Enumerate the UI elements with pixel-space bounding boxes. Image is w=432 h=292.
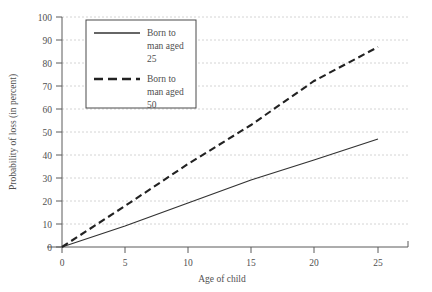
legend-label-2-line3: 50 (147, 100, 157, 110)
x-tick-label-25: 25 (373, 258, 383, 268)
x-tick-label-15: 15 (246, 258, 256, 268)
x-tick-label-20: 20 (309, 258, 319, 268)
x-tick-labels: 0 5 10 15 20 25 (60, 258, 383, 268)
y-tick-label-40: 40 (43, 151, 53, 161)
y-tick-label-100: 100 (38, 13, 53, 23)
x-axis-title: Age of child (198, 274, 246, 284)
legend-label-2-line1: Born to (147, 74, 176, 84)
legend-label-1-line2: man aged (147, 41, 184, 51)
y-tick-label-80: 80 (43, 59, 53, 69)
y-tick-label-0: 0 (47, 243, 52, 253)
y-tick-label-20: 20 (43, 197, 53, 207)
y-tick-label-60: 60 (43, 105, 53, 115)
legend-label-2-line2: man aged (147, 87, 184, 97)
x-tick-label-5: 5 (123, 258, 128, 268)
y-tick-labels: 100 90 80 70 60 50 40 30 20 10 0 (38, 13, 53, 253)
chart-figure: 100 90 80 70 60 50 40 30 20 10 0 0 5 10 … (0, 0, 432, 292)
x-tick-label-0: 0 (60, 258, 65, 268)
y-tick-label-70: 70 (43, 82, 53, 92)
x-tick-label-10: 10 (183, 258, 193, 268)
y-axis-title: Probability of loss (in percent) (8, 74, 19, 190)
y-axis-ticks (56, 17, 62, 247)
y-tick-label-30: 30 (43, 174, 53, 184)
legend: Born to man aged 25 Born to man aged 50 (86, 20, 196, 110)
legend-label-1-line3: 25 (147, 54, 157, 64)
probability-of-loss-line-chart: 100 90 80 70 60 50 40 30 20 10 0 0 5 10 … (0, 0, 432, 292)
y-tick-label-10: 10 (43, 220, 53, 230)
x-axis-ticks (62, 247, 378, 253)
y-tick-label-50: 50 (43, 128, 53, 138)
y-tick-label-90: 90 (43, 36, 53, 46)
legend-label-1-line1: Born to (147, 28, 176, 38)
